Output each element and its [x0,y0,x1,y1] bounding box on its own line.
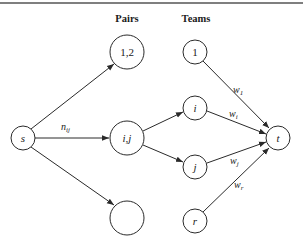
node-team-j: j [183,155,207,179]
node-team-1: 1 [183,40,207,64]
edge-s-to-pair-1-2 [31,64,114,129]
edge-pair-to-team-j [143,145,183,162]
node-team-r: r [183,209,207,233]
node-sink: t [266,126,290,150]
node-team-1-label: 1 [192,46,198,58]
teams-header: Teams [182,13,211,24]
edge-label-w-j: wj [230,155,239,168]
node-team-i-label: i [193,102,196,114]
flow-network-diagram: Pairs Teams nij w1 wi wj wr s 1,2 i,j 1 … [0,0,303,248]
node-pair-1-2: 1,2 [110,35,144,69]
edge-label-w-i: wi [229,108,238,121]
node-pair-i-j: i,j [110,121,144,155]
node-pair-empty [110,201,144,235]
node-team-i: i [183,96,207,120]
edge-label-w-r: wr [234,179,244,192]
node-team-r-label: r [193,215,198,227]
edge-label-w-1: w1 [233,84,243,97]
node-pair-1-2-label: 1,2 [120,46,134,58]
edge-label-n-ij: nij [61,121,70,134]
node-pair-i-j-label: i,j [123,132,132,144]
edge-pair-to-team-i [143,112,183,131]
pairs-header: Pairs [115,13,138,24]
node-source-label: s [21,132,25,144]
edge-s-to-pair-empty [31,147,114,205]
node-source: s [11,126,35,150]
